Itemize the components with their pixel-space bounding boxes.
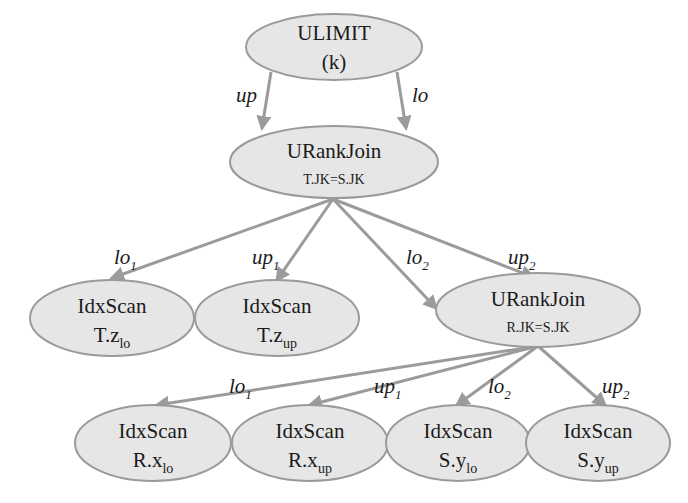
node-urankjoin-bottom-title: URankJoin bbox=[491, 287, 586, 311]
label-bottom-lo1: lo1 bbox=[229, 374, 252, 402]
label-top-up2: up2 bbox=[508, 245, 536, 273]
label-ulimit-lo: lo bbox=[412, 83, 428, 107]
label-bottom-lo2: lo2 bbox=[488, 374, 511, 402]
edge-top-up2 bbox=[333, 199, 533, 277]
node-ulimit-sub: (k) bbox=[322, 50, 347, 74]
label-ulimit-up: up bbox=[236, 83, 257, 107]
node-idxscan-tz-lo-title: IdxScan bbox=[78, 294, 147, 318]
node-urankjoin-bottom: URankJoin R.JK=S.JK bbox=[436, 273, 640, 347]
node-urankjoin-top-title: URankJoin bbox=[287, 139, 382, 163]
node-idxscan-rx-up-title: IdxScan bbox=[276, 419, 345, 443]
edge-top-lo1 bbox=[112, 199, 333, 278]
edges bbox=[112, 72, 605, 405]
node-idxscan-rx-lo: IdxScan R.xlo bbox=[75, 405, 231, 481]
node-idxscan-sy-lo-title: IdxScan bbox=[424, 419, 493, 443]
node-urankjoin-bottom-condition: R.JK=S.JK bbox=[506, 320, 569, 335]
label-bottom-up1: up1 bbox=[374, 374, 402, 402]
edge-top-up1 bbox=[277, 199, 333, 280]
node-idxscan-rx-up: IdxScan R.xup bbox=[232, 405, 388, 481]
node-urankjoin-top-condition: T.JK=S.JK bbox=[303, 172, 364, 187]
query-plan-diagram: ULIMIT (k) URankJoin T.JK=S.JK IdxScan T… bbox=[0, 0, 688, 503]
label-top-lo2: lo2 bbox=[406, 245, 429, 273]
node-ulimit: ULIMIT (k) bbox=[246, 14, 422, 80]
label-top-up1: up1 bbox=[252, 245, 280, 273]
edge-ulimit-lo bbox=[397, 72, 406, 128]
node-idxscan-tz-lo: IdxScan T.zlo bbox=[30, 280, 194, 356]
node-idxscan-sy-lo: IdxScan S.ylo bbox=[386, 405, 530, 481]
edge-ulimit-up bbox=[262, 72, 271, 128]
label-bottom-up2: up2 bbox=[602, 374, 630, 402]
node-urankjoin-top: URankJoin T.JK=S.JK bbox=[230, 126, 438, 198]
edge-bottom-up2 bbox=[538, 346, 605, 405]
node-idxscan-sy-up: IdxScan S.yup bbox=[526, 405, 670, 481]
node-idxscan-rx-lo-title: IdxScan bbox=[119, 419, 188, 443]
node-idxscan-tz-up: IdxScan T.zup bbox=[195, 280, 359, 356]
node-idxscan-tz-up-title: IdxScan bbox=[243, 294, 312, 318]
node-ulimit-title: ULIMIT bbox=[297, 21, 371, 45]
label-top-lo1: lo1 bbox=[114, 245, 137, 273]
node-idxscan-sy-up-title: IdxScan bbox=[564, 419, 633, 443]
